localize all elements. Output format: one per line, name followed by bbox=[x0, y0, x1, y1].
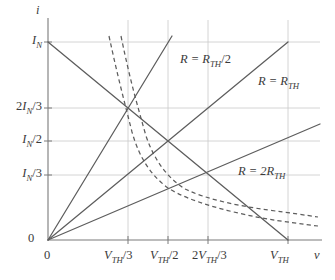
y-tick-label-in3: IN/3 bbox=[0, 167, 42, 182]
curve-label-r-rth: R = RTH bbox=[258, 75, 299, 90]
y-origin-label: 0 bbox=[28, 232, 34, 245]
x-axis-label: v bbox=[314, 249, 320, 262]
x-tick-label-vth2: VTH/2 bbox=[150, 249, 179, 264]
y-tick-label-in: IN bbox=[0, 34, 42, 49]
x-origin-label: 0 bbox=[44, 249, 50, 262]
x-tick-label-vth3: VTH/3 bbox=[104, 249, 133, 264]
plot-canvas bbox=[0, 0, 335, 280]
x-tick-label-vth: VTH bbox=[270, 249, 289, 264]
x-tick-label-2vth3: 2VTH/3 bbox=[192, 249, 227, 264]
load-line-r-half-rth bbox=[48, 36, 172, 240]
graph-figure: i v IN 2IN/3 IN/2 IN/3 0 0 VTH/3 VTH/2 2… bbox=[0, 0, 335, 280]
y-tick-label-2in3: 2IN/3 bbox=[0, 100, 42, 115]
y-axis-label: i bbox=[36, 4, 39, 17]
curve-label-r-half-rth: R = RTH/2 bbox=[180, 53, 231, 68]
y-tick-label-in2: IN/2 bbox=[0, 133, 42, 148]
curve-label-r-2rth: R = 2RTH bbox=[238, 165, 285, 180]
